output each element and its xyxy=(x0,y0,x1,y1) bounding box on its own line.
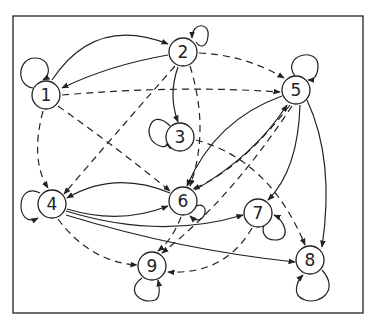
node-1: 1 xyxy=(32,81,60,109)
edge-2-6 xyxy=(190,66,200,186)
edge-4-7 xyxy=(66,211,243,227)
node-8: 8 xyxy=(296,246,324,274)
node-label: 8 xyxy=(305,250,316,270)
node-2: 2 xyxy=(169,38,197,66)
edge-2-3 xyxy=(173,67,178,122)
node-label: 3 xyxy=(175,127,186,147)
node-label: 6 xyxy=(178,191,189,211)
edge-6-4 xyxy=(67,183,170,198)
node-6: 6 xyxy=(169,187,197,215)
node-5: 5 xyxy=(282,76,310,104)
node-label: 5 xyxy=(291,80,302,100)
node-7: 7 xyxy=(244,199,272,227)
node-9: 9 xyxy=(138,252,166,280)
edge-3-8 xyxy=(196,140,305,245)
node-label: 1 xyxy=(41,85,52,105)
edge-4-6 xyxy=(67,206,168,216)
node-4: 4 xyxy=(38,190,66,218)
edge-6-9 xyxy=(158,217,181,251)
edge-5-8 xyxy=(307,100,326,247)
edge-2-4 xyxy=(64,66,175,194)
edge-1-2 xyxy=(52,35,168,80)
self-loop-8 xyxy=(296,270,329,301)
edge-5-6-b xyxy=(193,105,290,189)
edge-4-9 xyxy=(58,219,137,265)
directed-graph: 123456789 xyxy=(0,0,376,320)
node-label: 9 xyxy=(147,256,158,276)
edges xyxy=(21,26,329,301)
node-label: 7 xyxy=(253,203,264,223)
edge-1-4 xyxy=(38,111,48,188)
node-label: 4 xyxy=(47,194,58,214)
self-loop-9 xyxy=(134,278,159,301)
edge-1-6 xyxy=(58,106,170,191)
node-3: 3 xyxy=(166,123,194,151)
edge-2-1 xyxy=(62,55,168,88)
edge-5-7 xyxy=(268,105,300,200)
node-label: 2 xyxy=(178,42,189,62)
edge-1-5 xyxy=(62,89,280,95)
edge-2-5 xyxy=(199,53,284,78)
self-loop-4 xyxy=(21,191,40,220)
